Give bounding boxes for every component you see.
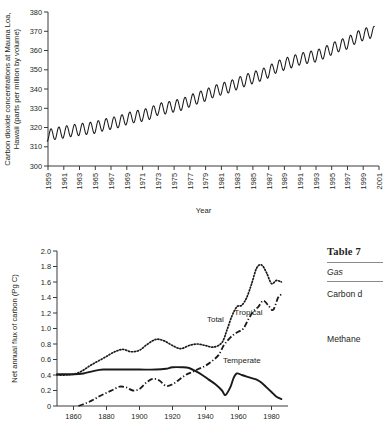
flux-series-line-temperate	[57, 367, 281, 399]
net-carbon-flux-plot: 00.20.40.60.81.01.21.41.61.82.0186018801…	[0, 238, 330, 440]
co2-y-tick-label: 360	[30, 46, 42, 55]
co2-x-tick-label: 1991	[296, 173, 305, 189]
co2-x-tick-label: 1971	[138, 173, 147, 189]
flux-series-label-total: Total	[207, 315, 224, 324]
flux-y-tick-label: 1.0	[41, 324, 51, 333]
table-row: Carbon d	[327, 282, 383, 299]
flux-x-tick-label: 1980	[263, 412, 279, 421]
chart-mauna-loa-co2: 3003103203303403503603703801959196119631…	[0, 0, 383, 222]
co2-y-tick-label: 300	[30, 162, 42, 171]
co2-y-tick-label: 310	[30, 142, 42, 151]
flux-x-tick-label: 1900	[131, 412, 147, 421]
flux-series-label-temperate: Temperate	[223, 356, 261, 365]
chart-net-carbon-flux: 00.20.40.60.81.01.21.41.61.82.0186018801…	[0, 238, 330, 440]
co2-y-tick-label: 380	[30, 8, 42, 17]
co2-x-tick-label: 1975	[170, 173, 179, 189]
flux-y-tick-label: 0.6	[41, 355, 51, 364]
mauna-loa-co2-plot: 3003103203303403503603703801959196119631…	[0, 0, 383, 222]
co2-x-tick-label: 1963	[75, 173, 84, 189]
table-column-header-gas: Gas	[327, 263, 383, 281]
flux-y-tick-label: 1.8	[41, 262, 51, 271]
co2-x-tick-label: 1987	[265, 173, 274, 189]
co2-y-tick-label: 350	[30, 65, 42, 74]
data-table: Table 7 Gas Carbon d Methane	[327, 246, 383, 344]
co2-y-tick-label: 330	[30, 104, 42, 113]
flux-x-tick-label: 1960	[230, 412, 246, 421]
co2-x-tick-label: 1989	[280, 173, 289, 189]
flux-x-tick-label: 1920	[164, 412, 180, 421]
flux-y-tick-label: 0.8	[41, 340, 51, 349]
co2-x-tick-label: 1961	[60, 173, 69, 189]
flux-y-tick-label: 1.2	[41, 309, 51, 318]
co2-x-tick-label: 1959	[44, 173, 53, 189]
table-row: Methane	[327, 299, 383, 344]
flux-y-tick-label: 0.4	[41, 371, 51, 380]
co2-y-tick-label: 320	[30, 123, 42, 132]
co2-x-tick-label: 1965	[91, 173, 100, 189]
flux-series-label-tropical: Tropical	[234, 308, 262, 317]
co2-x-tick-label: 1973	[154, 173, 163, 189]
flux-x-tick-label: 1940	[197, 412, 213, 421]
co2-x-tick-label: 1977	[186, 173, 195, 189]
co2-x-tick-label: 2001	[375, 173, 383, 189]
flux-x-tick-label: 1880	[98, 412, 114, 421]
flux-y-tick-label: 0.2	[41, 386, 51, 395]
co2-x-tick-label: 1997	[343, 173, 352, 189]
co2-y-tick-label: 340	[30, 85, 42, 94]
co2-x-axis-title: Year	[196, 206, 212, 215]
co2-x-tick-label: 1981	[217, 173, 226, 189]
co2-y-tick-label: 370	[30, 27, 42, 36]
co2-x-tick-label: 1967	[107, 173, 116, 189]
flux-y-axis-title: Net annual flux of carbon (Pg C)	[10, 274, 19, 383]
co2-data-line	[47, 26, 374, 141]
co2-x-tick-label: 1983	[233, 173, 242, 189]
table-caption: Table 7	[327, 246, 383, 257]
co2-x-tick-label: 1993	[312, 173, 321, 189]
flux-y-tick-label: 1.6	[41, 278, 51, 287]
co2-y-axis-title: Carbon dioxide concentrations at Mauna L…	[3, 12, 12, 165]
flux-y-tick-label: 1.4	[41, 293, 51, 302]
flux-x-tick-label: 1860	[65, 412, 81, 421]
flux-axes-group: 00.20.40.60.81.01.21.41.61.82.0186018801…	[41, 247, 288, 421]
co2-x-tick-label: 1995	[328, 173, 337, 189]
co2-y-axis-title: Hawaii (parts per million by volume)	[12, 28, 21, 149]
flux-y-tick-label: 2.0	[41, 247, 51, 256]
co2-x-tick-label: 1969	[123, 173, 132, 189]
flux-y-tick-label: 0	[47, 402, 51, 411]
co2-x-tick-label: 1979	[201, 173, 210, 189]
co2-x-tick-label: 1985	[249, 173, 258, 189]
co2-x-tick-label: 1999	[359, 173, 368, 189]
